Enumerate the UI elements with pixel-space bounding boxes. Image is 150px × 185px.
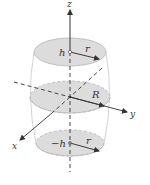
origin-point <box>69 96 72 99</box>
bottom-height-label: −h <box>51 138 66 149</box>
bottom-center-point <box>68 141 71 144</box>
top-center-point <box>68 50 71 53</box>
barrel-solid-diagram: z y x h r R −h r <box>0 0 150 185</box>
top-height-label: h <box>59 47 65 58</box>
x-axis-label: x <box>12 141 17 151</box>
middle-radius-label: R <box>91 89 100 100</box>
y-axis-label: y <box>129 109 136 119</box>
z-axis-label: z <box>66 0 72 9</box>
